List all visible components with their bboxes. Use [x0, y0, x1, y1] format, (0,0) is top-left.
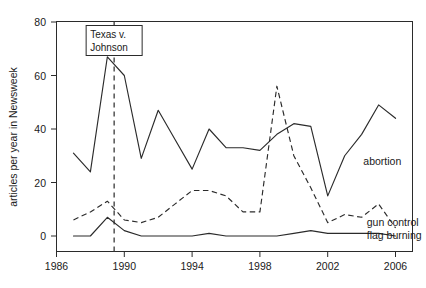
series-line-flag-burning	[73, 217, 395, 236]
series-label-abortion: abortion	[363, 155, 401, 167]
series-label-flag-burning: flag burning	[367, 229, 422, 241]
y-ticklabel-0: 0	[40, 230, 46, 242]
y-ticklabel-60: 60	[34, 70, 46, 82]
x-axis: 1986 1990 1994 1998 2002 2006	[45, 252, 408, 273]
x-ticklabel-1986: 1986	[45, 260, 69, 272]
chart-container: 80 60 40 20 0 articles per year in Newsw…	[0, 0, 426, 288]
y-ticklabel-80: 80	[34, 16, 46, 28]
x-ticklabel-1990: 1990	[113, 260, 137, 272]
series-line-abortion	[73, 57, 395, 196]
y-ticklabel-20: 20	[34, 177, 46, 189]
x-ticklabel-2002: 2002	[316, 260, 340, 272]
x-ticklabel-2006: 2006	[384, 260, 408, 272]
annotation-line-2: Johnson	[90, 42, 128, 53]
y-ticklabel-40: 40	[34, 123, 46, 135]
y-axis-title: articles per year in Newsweek	[7, 67, 19, 207]
series-label-gun-control: gun control	[367, 216, 419, 228]
y-axis: 80 60 40 20 0	[34, 16, 56, 242]
x-ticklabel-1994: 1994	[180, 260, 204, 272]
x-ticklabel-1998: 1998	[248, 260, 272, 272]
annotation-texas-v-johnson: Texas v. Johnson	[86, 26, 142, 56]
series-line-gun-control	[73, 86, 395, 228]
line-chart: 80 60 40 20 0 articles per year in Newsw…	[0, 0, 426, 288]
annotation-line-1: Texas v.	[90, 29, 126, 40]
